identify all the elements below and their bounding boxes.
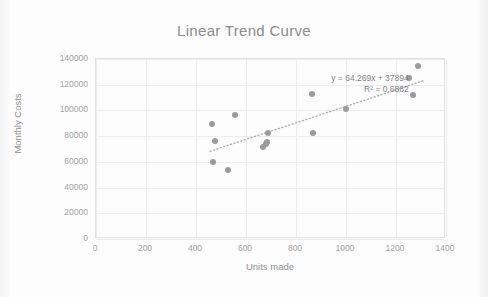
x-axis-title: Units made xyxy=(95,261,445,272)
data-point xyxy=(264,139,270,145)
data-point xyxy=(209,121,215,127)
equation-text: y = 64.269x + 37894 xyxy=(255,73,409,84)
r-squared-text: R² = 0.6882 xyxy=(255,84,409,95)
data-point xyxy=(225,167,231,173)
data-point xyxy=(212,138,218,144)
chart-screenshot: Linear Trend Curve 020000400006000080000… xyxy=(0,0,488,297)
trendline-equation-annotation: y = 64.269x + 37894 R² = 0.6882 xyxy=(255,73,409,95)
data-point xyxy=(310,130,316,136)
data-point xyxy=(210,159,216,165)
data-point xyxy=(265,130,271,136)
data-point xyxy=(415,63,421,69)
y-axis-title: Monthly Costs xyxy=(12,74,23,174)
data-point xyxy=(232,112,238,118)
data-point xyxy=(343,106,349,112)
data-points-layer xyxy=(0,0,488,297)
data-point xyxy=(410,92,416,98)
